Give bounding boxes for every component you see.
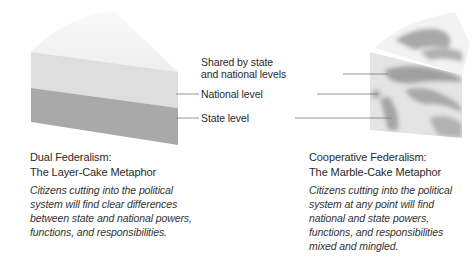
caption-line: Citizens cutting into the political <box>30 183 192 197</box>
dual-federalism-caption: Citizens cutting into the political syst… <box>30 183 192 239</box>
label-state-level: State level <box>201 112 249 124</box>
label-shared-line1: Shared by state <box>201 56 273 68</box>
caption-line: system will find clear differences <box>30 197 192 211</box>
caption-line: system at any point will find <box>309 197 452 211</box>
cooperative-federalism-caption: Citizens cutting into the political syst… <box>309 183 452 253</box>
dual-federalism-title: Dual Federalism: The Layer-Cake Metaphor <box>30 150 156 179</box>
label-national-level: National level <box>201 88 263 100</box>
caption-line: functions, and responsibilities. <box>30 225 192 239</box>
caption-line: national and state powers, <box>309 211 452 225</box>
caption-line: between state and national powers, <box>30 211 192 225</box>
caption-line: mixed and mingled. <box>309 239 452 253</box>
title-line: Dual Federalism: <box>30 150 156 165</box>
layer-cake <box>31 10 178 145</box>
marble-cake <box>370 12 470 138</box>
caption-line: Citizens cutting into the political <box>309 183 452 197</box>
title-line: Cooperative Federalism: <box>309 150 441 165</box>
label-shared-line2: and national levels <box>201 68 286 80</box>
caption-line: functions, and responsibilities <box>309 225 452 239</box>
title-line: The Layer-Cake Metaphor <box>30 165 156 180</box>
title-line: The Marble-Cake Metaphor <box>309 165 441 180</box>
cooperative-federalism-title: Cooperative Federalism: The Marble-Cake … <box>309 150 441 179</box>
